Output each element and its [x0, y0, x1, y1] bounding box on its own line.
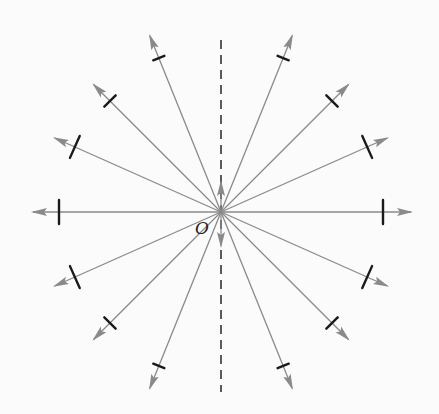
- origin-label: O: [195, 218, 209, 238]
- field-ray: [221, 136, 387, 212]
- radial-field-diagram: [0, 0, 439, 414]
- field-ray: [221, 212, 348, 339]
- arrow-line: [94, 85, 221, 212]
- origin-point: [219, 210, 223, 214]
- field-ray: [33, 200, 221, 224]
- tick-mark: [70, 136, 80, 158]
- field-ray: [221, 85, 348, 212]
- field-ray: [221, 200, 411, 224]
- field-ray: [55, 136, 221, 212]
- tick-mark: [362, 266, 372, 288]
- field-ray: [221, 212, 387, 288]
- tick-mark: [70, 266, 80, 288]
- arrow-line: [221, 212, 348, 339]
- field-ray: [94, 85, 221, 212]
- tick-mark: [362, 136, 372, 158]
- arrow-line: [221, 85, 348, 212]
